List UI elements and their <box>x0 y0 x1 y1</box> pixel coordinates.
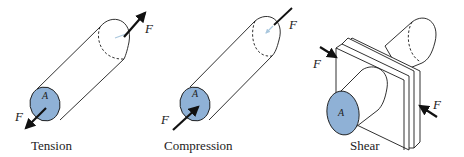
shear-panel: F F A Shear <box>312 18 442 153</box>
compression-force-label-left: F <box>160 112 170 127</box>
compression-caption: Compression <box>164 138 233 153</box>
shear-caption: Shear <box>350 138 380 153</box>
stress-types-diagram: F F A Tension F F A Compression <box>0 0 464 157</box>
tension-panel: F F A Tension <box>14 13 154 153</box>
shear-arrow-left <box>320 47 336 57</box>
shear-area-label: A <box>337 107 345 118</box>
shear-force-label-left: F <box>312 56 322 71</box>
tension-force-label-right: F <box>144 21 154 36</box>
compression-force-label-right: F <box>288 17 298 32</box>
tension-force-label-left: F <box>14 109 24 124</box>
shear-force-label-right: F <box>432 97 442 112</box>
tension-arrow-right <box>124 13 145 37</box>
tension-area-label: A <box>41 90 49 101</box>
compression-hidden-arrow <box>266 26 273 33</box>
compression-area-label: A <box>191 88 199 99</box>
compression-panel: F F A Compression <box>160 8 298 153</box>
tension-caption: Tension <box>31 138 72 153</box>
